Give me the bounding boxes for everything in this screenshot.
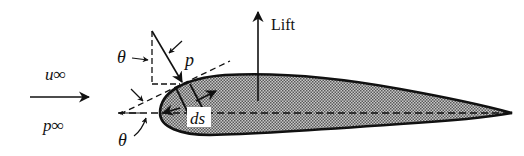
theta-upper-pointer <box>132 58 148 60</box>
pressure-label: p <box>183 50 194 70</box>
lift-label: Lift <box>271 16 296 33</box>
pressure-arrow <box>152 31 182 82</box>
theta-lower-pointer <box>134 118 146 136</box>
theta-tangent-pointer <box>131 89 143 101</box>
surface-element-label: ds <box>190 109 206 128</box>
pressure-angle-pointer <box>169 41 182 53</box>
airfoil-diagram: u∞ p∞ Lift p ds θ θ <box>0 0 524 156</box>
freestream-velocity-label: u∞ <box>45 65 66 84</box>
airfoil-body <box>160 74 512 135</box>
theta-lower-label: θ <box>118 130 127 150</box>
freestream-pressure-label: p∞ <box>42 116 64 135</box>
theta-upper-label: θ <box>117 47 126 67</box>
